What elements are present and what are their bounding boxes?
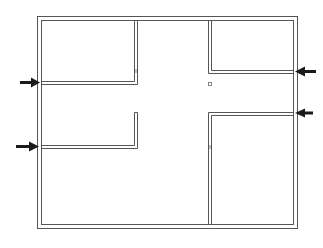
floor-plan (0, 0, 323, 248)
top-left-room-walls (42, 21, 138, 85)
lower-left-partition-walls (42, 113, 138, 149)
outer-wall-outer-line (38, 17, 298, 229)
top-right-room-walls (209, 21, 294, 74)
outer-wall-inner-line (42, 21, 294, 225)
arrow-head-left-icon (295, 67, 305, 77)
bottom-right-room-walls (209, 113, 294, 225)
arrow-right-upper (295, 67, 316, 77)
arrow-head-right-icon (31, 78, 40, 88)
arrow-head-left-icon (295, 109, 305, 118)
outer-wall (38, 17, 298, 229)
arrow-left-lower (16, 142, 39, 152)
small-square-marker (209, 83, 212, 86)
